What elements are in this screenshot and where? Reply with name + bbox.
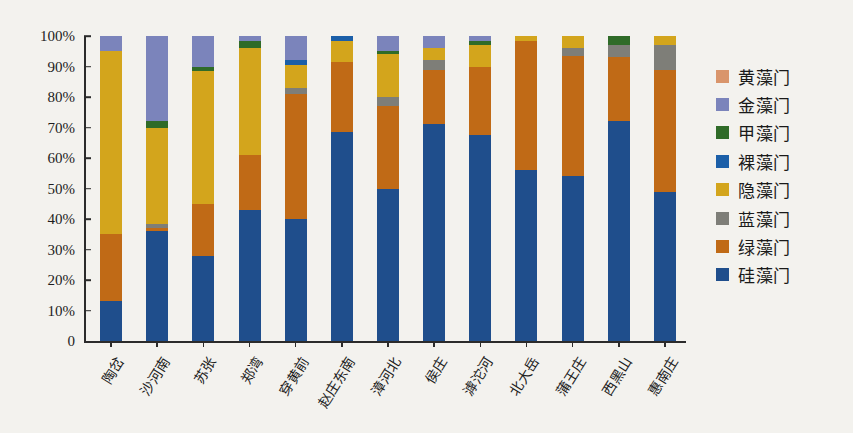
bar-stack[interactable] xyxy=(285,36,307,341)
bar-stack[interactable] xyxy=(469,36,491,341)
bar-stack[interactable] xyxy=(423,36,445,341)
bar-segment[interactable] xyxy=(285,36,307,60)
bar-segment[interactable] xyxy=(239,36,261,41)
bar-segment[interactable] xyxy=(562,56,584,176)
bar-stack[interactable] xyxy=(562,36,584,341)
bar-segment[interactable] xyxy=(146,121,168,127)
x-tick-mark xyxy=(341,341,343,347)
bar-segment[interactable] xyxy=(654,45,676,69)
bar-segment[interactable] xyxy=(239,41,261,49)
bar-segment[interactable] xyxy=(469,36,491,41)
bar-stack[interactable] xyxy=(100,36,122,341)
bar-segment[interactable] xyxy=(146,36,168,121)
bar-segment[interactable] xyxy=(562,36,584,48)
bar-group[interactable]: 蒲王庄 xyxy=(562,36,584,341)
bar-stack[interactable] xyxy=(331,36,353,341)
bar-segment[interactable] xyxy=(331,41,353,62)
bar-segment[interactable] xyxy=(654,192,676,341)
bar-stack[interactable] xyxy=(192,36,214,341)
y-tick-label: 0 xyxy=(68,333,85,350)
bar-segment[interactable] xyxy=(515,170,537,341)
bar-segment[interactable] xyxy=(654,70,676,192)
bar-segment[interactable] xyxy=(515,41,537,171)
bar-segment[interactable] xyxy=(285,60,307,65)
bar-segment[interactable] xyxy=(239,48,261,155)
bar-stack[interactable] xyxy=(515,36,537,341)
bar-segment[interactable] xyxy=(285,219,307,341)
bar-segment[interactable] xyxy=(469,67,491,136)
bar-segment[interactable] xyxy=(377,51,399,54)
bar-stack[interactable] xyxy=(146,36,168,341)
bar-segment[interactable] xyxy=(192,71,214,204)
bar-segment[interactable] xyxy=(608,45,630,57)
bar-group[interactable]: 滹沱河 xyxy=(469,36,491,341)
bar-stack[interactable] xyxy=(377,36,399,341)
bar-segment[interactable] xyxy=(100,234,122,301)
bar-segment[interactable] xyxy=(146,128,168,224)
bar-segment[interactable] xyxy=(377,36,399,51)
bar-segment[interactable] xyxy=(100,36,122,51)
bar-group[interactable]: 赵庄东南 xyxy=(331,36,353,341)
bar-segment[interactable] xyxy=(608,57,630,121)
bar-segment[interactable] xyxy=(377,97,399,106)
legend-item[interactable]: 裸藻门 xyxy=(716,147,846,175)
legend-item[interactable]: 黄藻门 xyxy=(716,62,846,90)
bar-segment[interactable] xyxy=(192,67,214,72)
bar-segment[interactable] xyxy=(423,60,445,69)
bar-segment[interactable] xyxy=(100,301,122,341)
bar-segment[interactable] xyxy=(377,54,399,97)
bar-segment[interactable] xyxy=(377,106,399,188)
bar-segment[interactable] xyxy=(285,65,307,88)
bar-segment[interactable] xyxy=(192,36,214,67)
bar-stack[interactable] xyxy=(608,36,630,341)
bar-segment[interactable] xyxy=(423,48,445,60)
x-tick-label: 穿黄前 xyxy=(273,353,312,399)
bar-segment[interactable] xyxy=(146,228,168,231)
bar-segment[interactable] xyxy=(331,132,353,341)
legend-item[interactable]: 甲藻门 xyxy=(716,119,846,147)
bar-segment[interactable] xyxy=(423,36,445,48)
bar-stack[interactable] xyxy=(239,36,261,341)
legend-item[interactable]: 硅藻门 xyxy=(716,261,846,289)
bar-segment[interactable] xyxy=(146,231,168,341)
bar-group[interactable]: 漳河北 xyxy=(377,36,399,341)
bar-group[interactable]: 侯庄 xyxy=(423,36,445,341)
bar-segment[interactable] xyxy=(469,135,491,341)
bar-segment[interactable] xyxy=(469,45,491,66)
bar-segment[interactable] xyxy=(654,36,676,45)
bar-segment[interactable] xyxy=(285,94,307,219)
bar-segment[interactable] xyxy=(331,36,353,41)
bar-group[interactable]: 惠南庄 xyxy=(654,36,676,341)
bar-segment[interactable] xyxy=(192,204,214,256)
bar-segment[interactable] xyxy=(239,210,261,341)
bar-segment[interactable] xyxy=(239,155,261,210)
bar-segment[interactable] xyxy=(423,70,445,125)
bar-segment[interactable] xyxy=(331,62,353,132)
x-tick-mark xyxy=(295,341,297,347)
bar-segment[interactable] xyxy=(377,189,399,342)
bar-group[interactable]: 沙河南 xyxy=(146,36,168,341)
bar-group[interactable]: 苏张 xyxy=(192,36,214,341)
legend-item[interactable]: 金藻门 xyxy=(716,90,846,118)
bar-segment[interactable] xyxy=(562,176,584,341)
bar-segment[interactable] xyxy=(285,88,307,94)
legend-item[interactable]: 隐藻门 xyxy=(716,176,846,204)
bar-segment[interactable] xyxy=(192,256,214,341)
bar-segment[interactable] xyxy=(469,41,491,46)
bar-segment[interactable] xyxy=(100,51,122,234)
bar-stack[interactable] xyxy=(654,36,676,341)
bar-segment[interactable] xyxy=(146,224,168,229)
bar-segment[interactable] xyxy=(608,36,630,45)
bar-segment[interactable] xyxy=(423,124,445,341)
bar-group[interactable]: 北大岳 xyxy=(515,36,537,341)
bar-segment[interactable] xyxy=(515,36,537,41)
bar-segment[interactable] xyxy=(562,48,584,56)
bar-segment[interactable] xyxy=(608,121,630,341)
bar-group[interactable]: 西黑山 xyxy=(608,36,630,341)
legend-item[interactable]: 绿藻门 xyxy=(716,232,846,260)
y-tick-label: 80% xyxy=(48,89,85,106)
legend-item[interactable]: 蓝藻门 xyxy=(716,204,846,232)
bar-group[interactable]: 郑湾 xyxy=(239,36,261,341)
bar-group[interactable]: 陶岔 xyxy=(100,36,122,341)
bar-group[interactable]: 穿黄前 xyxy=(285,36,307,341)
